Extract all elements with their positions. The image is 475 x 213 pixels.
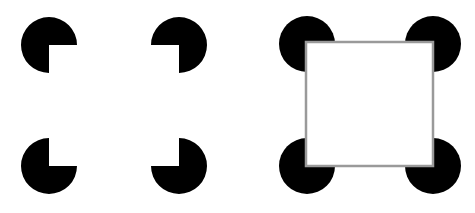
pacman-inducer-top-left [21, 17, 77, 73]
kanizsa-figure [0, 0, 475, 213]
outlined-square [306, 42, 433, 166]
left-panel-illusory-square [21, 17, 207, 194]
pacman-inducer-bottom-right [151, 138, 207, 194]
pacman-inducer-bottom-left [21, 138, 77, 194]
pacman-inducer-top-right [151, 17, 207, 73]
right-panel-outlined-square [279, 16, 461, 194]
